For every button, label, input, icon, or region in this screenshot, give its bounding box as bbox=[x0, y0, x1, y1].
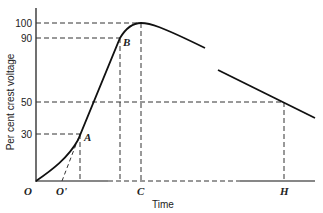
x-label-o-prime: O' bbox=[56, 185, 67, 197]
y-tick-100: 100 bbox=[15, 18, 32, 29]
point-a-label: A bbox=[83, 131, 91, 143]
x-label-o: O bbox=[24, 185, 32, 197]
y-axis-title: Per cent crest voltage bbox=[5, 53, 16, 150]
y-tick-30: 30 bbox=[21, 129, 33, 140]
x-label-h: H bbox=[279, 185, 289, 197]
x-label-c: C bbox=[137, 185, 145, 197]
impulse-wave-diagram: 100 90 50 30 A B O O' C H Time Per cent … bbox=[0, 0, 323, 213]
y-tick-90: 90 bbox=[21, 33, 33, 44]
x-axis-title: Time bbox=[152, 199, 174, 210]
y-tick-50: 50 bbox=[21, 97, 33, 108]
wave-curve-tail bbox=[218, 70, 315, 118]
point-b-label: B bbox=[122, 36, 130, 48]
